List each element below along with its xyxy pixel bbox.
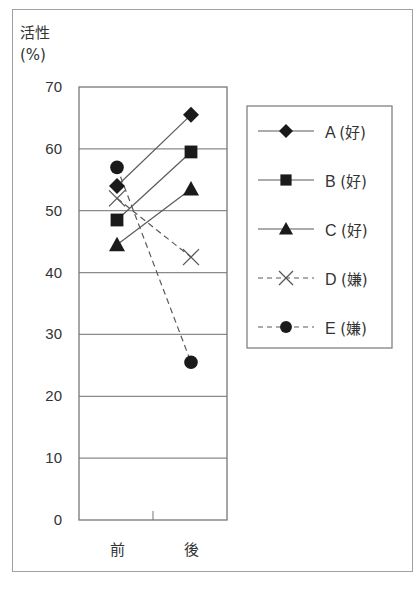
circle-marker-icon bbox=[280, 321, 292, 333]
legend-item-b: B (好) bbox=[325, 170, 367, 191]
circle-marker-icon bbox=[184, 355, 198, 369]
legend-series-name: A bbox=[325, 124, 339, 141]
plot-area bbox=[0, 0, 419, 590]
series-line-b bbox=[117, 152, 191, 220]
series-line-e bbox=[117, 167, 191, 362]
legend-series-name: C bbox=[325, 222, 341, 239]
legend-item-c: C (好) bbox=[325, 219, 368, 240]
square-marker-icon bbox=[185, 146, 198, 159]
legend-series-name: E bbox=[325, 320, 340, 337]
legend-item-d: D (嫌) bbox=[325, 268, 368, 289]
legend-series-tag: (嫌) bbox=[340, 320, 367, 338]
legend-series-tag: (嫌) bbox=[341, 271, 368, 289]
legend-series-tag: (好) bbox=[339, 124, 366, 142]
triangle-marker-icon bbox=[183, 181, 199, 195]
legend-series-tag: (好) bbox=[340, 173, 367, 191]
legend-series-name: B bbox=[325, 173, 340, 190]
triangle-marker-icon bbox=[109, 237, 125, 251]
x-marker-icon bbox=[183, 249, 199, 265]
legend-item-a: A (好) bbox=[325, 121, 366, 142]
legend-item-e: E (嫌) bbox=[325, 317, 367, 338]
legend-box bbox=[247, 106, 392, 348]
series-line-d bbox=[117, 198, 191, 257]
legend-series-name: D bbox=[325, 271, 341, 288]
square-marker-icon bbox=[280, 174, 291, 185]
series-line-a bbox=[117, 115, 191, 186]
square-marker-icon bbox=[111, 214, 124, 227]
legend-series-tag: (好) bbox=[341, 222, 368, 240]
circle-marker-icon bbox=[110, 161, 124, 175]
